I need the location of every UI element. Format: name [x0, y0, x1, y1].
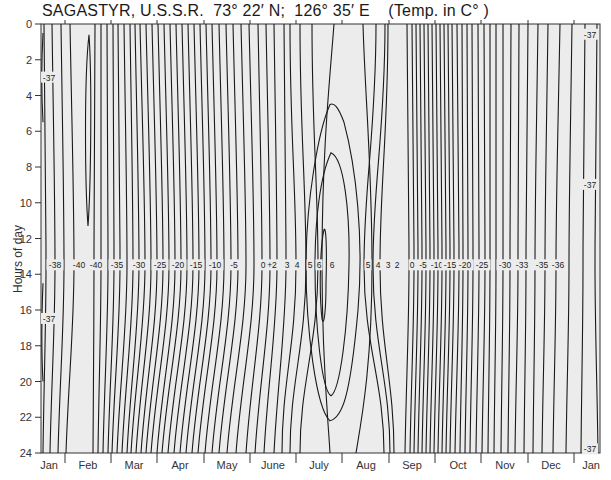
x-month-label: Mar [125, 459, 144, 471]
y-tick-label: 2 [26, 54, 32, 66]
y-tick-label: 24 [20, 447, 32, 459]
x-month-label: Oct [449, 459, 466, 471]
y-tick-label: 8 [26, 161, 32, 173]
y-tick-label: 12 [20, 233, 32, 245]
contour-label: 2 [395, 260, 400, 270]
contour-label: -20 [172, 260, 185, 270]
y-tick-label: 4 [26, 90, 32, 102]
contour-label: -36 [552, 260, 565, 270]
contour-label: -30 [499, 260, 512, 270]
x-month-label: Jan [40, 459, 58, 471]
contour-label: -15 [190, 260, 203, 270]
contour-label: 0 [261, 260, 266, 270]
contour-label: -5 [230, 260, 238, 270]
y-tick-label: 18 [20, 340, 32, 352]
y-tick-label: 6 [26, 125, 32, 137]
edge-contour-label: -37 [584, 30, 597, 40]
contour-label: 5 [308, 260, 313, 270]
contour-label: -5 [419, 260, 427, 270]
contour-label: 4 [295, 260, 300, 270]
contour-label: 0 [410, 260, 415, 270]
y-axis: 024681012141618202224 [20, 18, 41, 459]
contour-label: -38 [49, 260, 62, 270]
x-month-label: Sep [402, 459, 422, 471]
contour-label: -25 [154, 260, 167, 270]
edge-contour-label: -37 [584, 444, 597, 454]
y-tick-label: 20 [20, 376, 32, 388]
edge-contour-label: -37 [43, 314, 56, 324]
edge-contour-label: -37 [584, 180, 597, 190]
x-month-label: June [261, 459, 285, 471]
contour-label: +2 [267, 260, 277, 270]
y-tick-label: 14 [20, 268, 32, 280]
y-tick-label: 22 [20, 411, 32, 423]
y-tick-label: 10 [20, 197, 32, 209]
contour-label: -33 [516, 260, 529, 270]
x-month-label: Feb [79, 459, 98, 471]
edge-contour-label: -37 [43, 73, 56, 83]
contour-label: -30 [133, 260, 146, 270]
x-month-label: Jan [582, 459, 600, 471]
contour-label: 6 [330, 260, 335, 270]
x-month-label: Nov [495, 459, 515, 471]
contour-label: 4 [376, 260, 381, 270]
x-month-label: Dec [541, 459, 561, 471]
contour-label: -10 [209, 260, 222, 270]
x-month-label: July [309, 459, 329, 471]
contour-chart: -38-40-40-35-30-25-20-15-10-50+234566543… [0, 0, 611, 480]
contour-label: 6 [317, 260, 322, 270]
x-month-label: Apr [171, 459, 188, 471]
contour-label: -20 [459, 260, 472, 270]
y-tick-label: 0 [26, 18, 32, 30]
contour-label: 3 [386, 260, 391, 270]
contour-label: 3 [285, 260, 290, 270]
contour-label: -25 [476, 260, 489, 270]
x-month-label: Aug [356, 459, 376, 471]
contour-label: -35 [536, 260, 549, 270]
contour-label: -35 [111, 260, 124, 270]
x-month-label: May [217, 459, 238, 471]
contour-label: -15 [444, 260, 457, 270]
y-tick-label: 16 [20, 304, 32, 316]
contour-label: 5 [366, 260, 371, 270]
contour-label: -40 [73, 260, 86, 270]
contour-label: -40 [90, 260, 103, 270]
